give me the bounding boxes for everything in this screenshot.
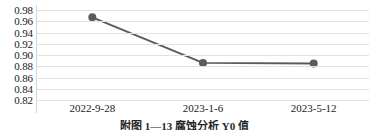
- x-tick-label: 2022-9-28: [69, 101, 115, 115]
- gridline: [37, 21, 369, 22]
- x-tick-label: 2023-1-6: [183, 101, 223, 115]
- y-tick-label: 0.82: [14, 95, 33, 106]
- chart-caption: 附图 1—13 腐蚀分析 Y0 值: [0, 120, 369, 130]
- gridline: [37, 44, 369, 45]
- data-point-marker: [88, 13, 96, 21]
- gridline: [37, 55, 369, 56]
- gridline: [37, 10, 369, 11]
- y-axis-tick-labels: 0.980.960.940.920.900.880.860.840.82: [0, 0, 36, 100]
- gridline: [37, 89, 369, 90]
- gridline: [37, 66, 369, 67]
- gridline: [37, 78, 369, 79]
- line-chart: 0.980.960.940.920.900.880.860.840.82 202…: [0, 0, 369, 130]
- gridline: [37, 33, 369, 34]
- plot-area: [37, 10, 369, 100]
- x-axis-tick-labels: 2022-9-282023-1-62023-5-12: [37, 101, 369, 117]
- x-tick-label: 2023-5-12: [291, 101, 337, 115]
- series-line: [92, 17, 313, 63]
